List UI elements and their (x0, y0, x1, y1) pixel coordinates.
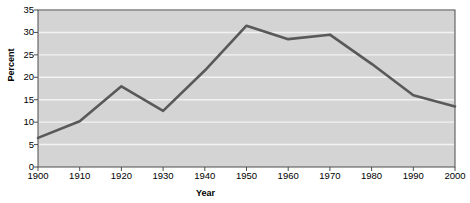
x-axis-tick-label: 1940 (185, 170, 225, 181)
line-chart: 05101520253035 1900191019201930194019501… (0, 0, 470, 203)
plot-background (38, 10, 455, 167)
y-axis-title: Percent (6, 30, 16, 100)
y-axis-tick-label: 10 (12, 117, 34, 127)
x-axis-tick-label: 1990 (393, 170, 433, 181)
x-axis-tick-label: 1980 (352, 170, 392, 181)
x-axis-tick-label: 1970 (310, 170, 350, 181)
x-axis-tick-label: 1950 (227, 170, 267, 181)
x-axis-title: Year (196, 188, 215, 198)
x-axis-tick-label: 1960 (268, 170, 308, 181)
x-axis-tick-label: 1900 (18, 170, 58, 181)
y-axis-tick-label: 5 (12, 140, 34, 150)
x-axis-tick-label: 1920 (101, 170, 141, 181)
x-axis-tick-label: 1930 (143, 170, 183, 181)
x-axis-tick-label: 2000 (435, 170, 470, 181)
y-axis-tick-marks (34, 10, 38, 167)
y-axis-tick-label: 35 (12, 5, 34, 15)
x-axis-tick-label: 1910 (60, 170, 100, 181)
